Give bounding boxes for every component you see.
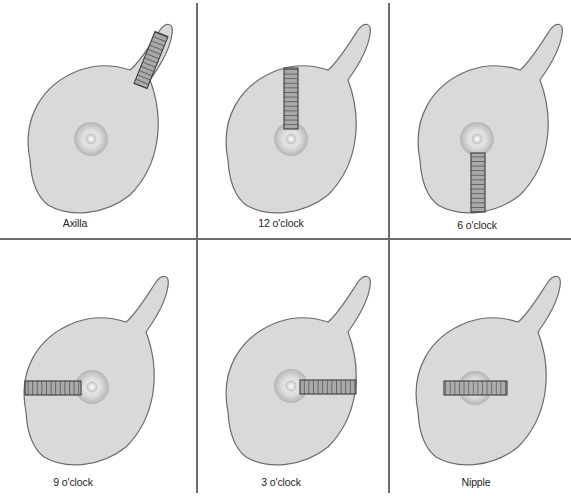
nipple-dot [472,134,482,144]
panel-label: 12 o'clock [258,217,303,229]
transducer-probe [444,381,507,395]
panel-label: 9 o'clock [53,476,93,488]
panel-label: Nipple [461,476,490,488]
nipple-dot [86,134,96,144]
breast-diagram [198,240,388,496]
panel-label: Axilla [63,217,88,229]
transducer-probe [300,380,356,394]
breast-diagram [198,0,388,238]
panel-nipple: Nipple [390,240,571,496]
nipple-dot [286,134,296,144]
figure: Axilla 12 o'clock 6 o'clock [0,0,571,496]
transducer-probe [471,153,485,212]
panel-axilla: Axilla [0,0,196,238]
breast-diagram [390,240,571,496]
nipple-dot [286,381,296,391]
breast-diagram [0,0,196,238]
transducer-probe [284,68,298,129]
breast-diagram [0,240,196,496]
panel-12-oclock: 12 o'clock [198,0,388,238]
breast-diagram [390,0,571,238]
panel-3-oclock: 3 o'clock [198,240,388,496]
nipple-dot [87,382,97,392]
panel-9-oclock: 9 o'clock [0,240,196,496]
panel-label: 3 o'clock [261,476,301,488]
transducer-probe [25,381,81,395]
panel-6-oclock: 6 o'clock [390,0,571,238]
panel-label: 6 o'clock [457,219,497,231]
